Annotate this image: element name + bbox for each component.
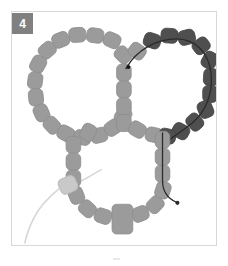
beading-diagram bbox=[12, 12, 216, 245]
step-number-badge: 4 bbox=[12, 13, 33, 34]
step-number-label: 4 bbox=[19, 18, 26, 30]
diagram-canvas bbox=[11, 11, 217, 246]
tail-thread bbox=[25, 188, 60, 242]
center-column-beads bbox=[117, 64, 132, 132]
needle-end-dot bbox=[175, 201, 179, 205]
figure-root: 4 bbox=[0, 0, 228, 266]
bottom-edge-artifact bbox=[113, 258, 120, 260]
right-ring-light-beads bbox=[126, 40, 164, 144]
knot-dot bbox=[126, 65, 130, 69]
focal-tube-bead bbox=[112, 204, 133, 234]
